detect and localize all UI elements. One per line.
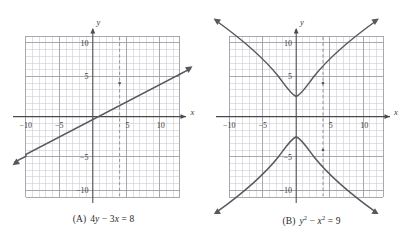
panel-b: −10 −5 5 10 10 5 −5 −10 x y (B)y2 − x2 =…	[208, 0, 415, 244]
caption-a: (A)4y − 3x = 8	[0, 214, 207, 224]
y-axis-arrow-b	[294, 28, 299, 34]
x-tick-label-neg5-b: −5	[258, 121, 267, 130]
x-axis-label-a: x	[190, 107, 195, 117]
caption-a-op1: −	[102, 214, 107, 224]
caption-b-equation: y2 − x2 = 9	[299, 216, 340, 226]
y-axis-label-a: y	[96, 17, 101, 27]
x-axis-arrow-a	[181, 114, 187, 119]
y-tick-label-10-a: 10	[81, 39, 89, 48]
y-tick-label-neg5-a: −5	[80, 153, 89, 162]
caption-b-exp1: 2	[304, 214, 307, 221]
caption-b-label: (B)	[282, 216, 295, 226]
curve-arrow-a-right	[185, 66, 193, 73]
caption-a-label: (A)	[73, 214, 87, 224]
y-tick-label-neg10-a: −10	[76, 186, 89, 195]
x-tick-label-neg5-a: −5	[55, 121, 64, 130]
caption-a-var2: x	[115, 214, 119, 224]
x-axis-arrow-b	[385, 114, 391, 119]
x-tick-label-neg10-a: −10	[20, 121, 33, 130]
panel-a: −10 −5 5 10 10 5 −5 −10 x y (A)4y − 3x =…	[0, 0, 207, 244]
x-tick-label-neg10-b: −10	[223, 121, 236, 130]
caption-a-var1: y	[95, 214, 99, 224]
caption-b-exp2: 2	[322, 214, 325, 221]
x-tick-label-10-a: 10	[157, 121, 165, 130]
caption-b-op1: −	[310, 216, 315, 226]
x-axis-label-b: x	[393, 107, 398, 117]
y-tick-label-5-a: 5	[85, 72, 89, 81]
intersection-point-lower-b	[322, 149, 325, 152]
caption-a-eq-sign: =	[121, 214, 126, 224]
graph-b: −10 −5 5 10 10 5 −5 −10 x y	[208, 0, 415, 214]
y-tick-label-neg10-b: −10	[279, 186, 292, 195]
caption-a-equation: 4y − 3x = 8	[90, 214, 134, 224]
caption-a-rhs: 8	[129, 214, 134, 224]
y-tick-label-10-b: 10	[284, 39, 292, 48]
y-tick-label-neg5-b: −5	[283, 153, 292, 162]
intersection-point-a	[118, 82, 121, 85]
x-tick-label-5-a: 5	[125, 121, 129, 130]
caption-b-eq-sign: =	[328, 216, 333, 226]
x-tick-label-10-b: 10	[360, 121, 368, 130]
y-axis-arrow-a	[90, 28, 95, 34]
caption-b: (B)y2 − x2 = 9	[208, 214, 415, 226]
y-tick-label-5-b: 5	[288, 72, 292, 81]
caption-b-rhs: 9	[336, 216, 341, 226]
y-axis-label-b: y	[299, 17, 304, 27]
graph-a: −10 −5 5 10 10 5 −5 −10 x y	[0, 0, 207, 214]
x-tick-label-5-b: 5	[329, 121, 333, 130]
intersection-point-upper-b	[322, 82, 325, 85]
figure-container: −10 −5 5 10 10 5 −5 −10 x y (A)4y − 3x =…	[0, 0, 415, 244]
